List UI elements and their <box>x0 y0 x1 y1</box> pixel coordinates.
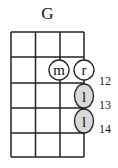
fretboard-grid <box>11 32 84 157</box>
fret-number-12: 12 <box>99 75 111 87</box>
fret-number-14: 14 <box>99 123 111 135</box>
finger-dot-m: m <box>49 60 69 80</box>
fret-number-13: 13 <box>99 99 111 111</box>
finger-dot-r: r <box>74 60 94 80</box>
finger-label: m <box>53 62 65 78</box>
finger-label: r <box>82 62 87 78</box>
finger-label: l <box>82 89 86 105</box>
finger-dot-l-13: l <box>75 84 94 108</box>
finger-label: l <box>82 114 86 130</box>
finger-dot-l-14: l <box>75 109 94 133</box>
finger-dots: m r l l <box>49 60 94 133</box>
